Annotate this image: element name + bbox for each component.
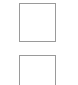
checkbox-square-1[interactable] bbox=[19, 3, 56, 42]
checkbox-square-2[interactable] bbox=[19, 55, 56, 85]
